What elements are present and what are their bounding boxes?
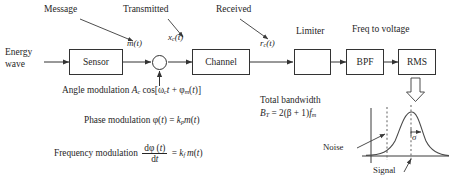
- frac-numerator: dφ (t): [142, 143, 167, 154]
- signal-label-rc-t: rc(t): [260, 39, 275, 49]
- label-total-bandwidth: Total bandwidth: [260, 96, 321, 106]
- angle-modulation-label: Angle modulation: [62, 85, 129, 95]
- noise-signal-plot: [357, 105, 449, 172]
- block-bpf[interactable]: BPF: [346, 49, 384, 75]
- block-channel-label: Channel: [205, 57, 237, 67]
- phase-modulation-label: Phase modulation: [84, 115, 150, 125]
- block-channel[interactable]: Channel: [192, 49, 250, 75]
- leader-signal: [404, 159, 411, 172]
- plot-label-sigma: σ: [412, 133, 416, 142]
- frac-denominator: dt: [142, 154, 167, 164]
- plot-label-signal: Signal: [373, 166, 395, 175]
- equation-frequency-modulation: Frequency modulation dφ (t) dt = kf m(t): [54, 143, 203, 164]
- angle-modulation-expr: Ac cos[ωct + φm(t)]: [132, 85, 201, 95]
- block-rms-label: RMS: [407, 57, 427, 67]
- block-sensor[interactable]: Sensor: [69, 49, 123, 75]
- equation-total-bandwidth: BT = 2(β + 1)fm: [260, 109, 316, 119]
- label-limiter: Limiter: [296, 27, 325, 37]
- equation-phase-modulation: Phase modulation φ(t) = kpm(t): [84, 116, 200, 126]
- block-limiter[interactable]: [294, 49, 331, 75]
- label-transmitted: Transmitted: [123, 5, 169, 15]
- diagram-canvas: Message Transmitted Received Limiter Fre…: [0, 0, 453, 178]
- energy-wave-line1: Energy: [5, 47, 32, 59]
- hollow-down-arrow: [407, 78, 425, 102]
- equation-angle-modulation: Angle modulation Ac cos[ωct + φm(t)]: [62, 86, 201, 96]
- block-sensor-label: Sensor: [83, 57, 109, 67]
- plot-label-noise: Noise: [323, 143, 344, 152]
- plot-gaussian-curve: [366, 112, 449, 156]
- signal-label-m-t: m(t): [127, 39, 142, 48]
- leader-received: [240, 19, 268, 39]
- block-rms[interactable]: RMS: [398, 49, 436, 75]
- label-freq-to-voltage: Freq to voltage: [352, 25, 410, 35]
- block-multiplier[interactable]: [152, 55, 167, 70]
- frequency-modulation-label: Frequency modulation: [54, 148, 138, 158]
- energy-wave-line2: wave: [5, 59, 32, 71]
- block-bpf-label: BPF: [357, 57, 374, 67]
- label-energy-wave: Energy wave: [5, 47, 32, 70]
- label-message: Message: [44, 5, 77, 15]
- leader-message: [80, 19, 133, 41]
- label-received: Received: [216, 5, 251, 15]
- signal-label-xc-t: xc(t): [168, 33, 183, 43]
- phase-modulation-expr: φ(t) = kpm(t): [153, 115, 200, 125]
- frequency-modulation-rhs: = kf m(t): [172, 148, 203, 158]
- frequency-modulation-fraction: dφ (t) dt: [142, 143, 167, 164]
